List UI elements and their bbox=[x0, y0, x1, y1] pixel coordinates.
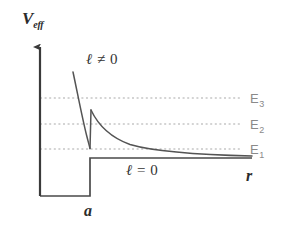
y-axis-label-main: V bbox=[22, 9, 33, 28]
curve-label-l-zero: ℓ = 0 bbox=[126, 163, 158, 178]
energy-level-lines bbox=[40, 98, 240, 149]
effective-potential-figure: Veff r a ℓ ≠ 0 ℓ = 0 E3 E2 E1 bbox=[0, 0, 284, 226]
relation-value-zero: 0 bbox=[150, 162, 158, 178]
energy-label-e3: E3 bbox=[250, 92, 265, 109]
energy-label-e3-sub: 3 bbox=[259, 99, 265, 109]
relation-operator-nonzero: ≠ bbox=[97, 51, 106, 67]
plot-canvas bbox=[0, 0, 284, 226]
energy-label-e1: E1 bbox=[250, 143, 265, 160]
curve-label-l-nonzero: ℓ ≠ 0 bbox=[86, 52, 118, 67]
relation-value-nonzero: 0 bbox=[110, 51, 118, 67]
ell-symbol-nonzero: ℓ bbox=[86, 51, 93, 67]
x-tick-label-a: a bbox=[84, 203, 92, 219]
relation-operator-zero: = bbox=[137, 162, 146, 178]
energy-label-e3-main: E bbox=[250, 91, 259, 106]
energy-label-e2-sub: 2 bbox=[259, 125, 265, 135]
energy-label-e1-sub: 1 bbox=[259, 150, 265, 160]
x-axis-label: r bbox=[246, 168, 252, 184]
energy-label-e2-main: E bbox=[250, 117, 259, 132]
y-axis-label-sub: eff bbox=[33, 19, 43, 30]
ell-symbol-zero: ℓ bbox=[126, 162, 133, 178]
energy-label-e1-main: E bbox=[250, 142, 259, 157]
energy-label-e2: E2 bbox=[250, 118, 265, 135]
y-axis-label: Veff bbox=[22, 10, 43, 30]
curve-l-nonzero bbox=[73, 72, 252, 156]
